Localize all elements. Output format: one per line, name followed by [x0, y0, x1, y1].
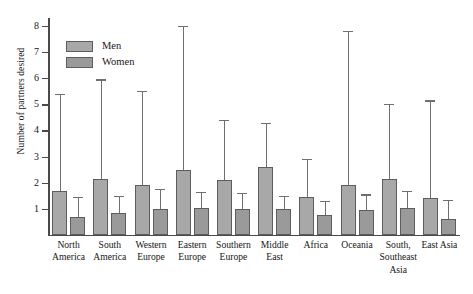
error-bar-women — [407, 191, 408, 208]
bar-women — [276, 209, 291, 235]
bar-women — [70, 217, 85, 235]
error-bar-cap-women — [320, 201, 330, 202]
y-axis-line — [48, 18, 50, 235]
y-tick-label: 5 — [34, 99, 39, 109]
error-bar-cap-women — [114, 196, 124, 197]
error-bar-men — [142, 91, 143, 185]
bar-group — [423, 18, 456, 235]
y-tick-label: 7 — [34, 47, 39, 57]
chart-container: Number of partners desired 12345678 Nort… — [0, 0, 473, 294]
bar-group — [176, 18, 209, 235]
error-bar-cap-men — [137, 91, 147, 92]
error-bar-men — [389, 104, 390, 179]
legend-item-men: Men — [66, 40, 134, 53]
bar-women — [317, 215, 332, 235]
bar-group — [299, 18, 332, 235]
error-bar-women — [78, 197, 79, 217]
error-bar-cap-men — [384, 104, 394, 105]
bar-men — [52, 191, 67, 235]
y-tick-label: 6 — [34, 73, 39, 83]
error-bar-women — [201, 192, 202, 208]
y-tick-label: 2 — [34, 178, 39, 188]
bar-men — [217, 180, 232, 235]
bar-men — [423, 198, 438, 235]
error-bar-women — [448, 200, 449, 220]
bar-group — [382, 18, 415, 235]
error-bar-cap-men — [425, 100, 435, 101]
bar-group — [135, 18, 168, 235]
bar-women — [194, 208, 209, 235]
y-tick-mark — [42, 209, 48, 210]
legend-label-women: Women — [102, 57, 134, 68]
bar-men — [93, 179, 108, 235]
x-axis-line — [48, 235, 460, 236]
error-bar-men — [101, 79, 102, 178]
y-tick-mark — [42, 78, 48, 79]
legend-item-women: Women — [66, 56, 134, 69]
error-bar-women — [119, 196, 120, 213]
bar-men — [299, 197, 314, 235]
y-tick-label: 1 — [34, 204, 39, 214]
bar-women — [400, 208, 415, 235]
error-bar-women — [366, 194, 367, 210]
error-bar-women — [284, 196, 285, 209]
y-tick-mark — [42, 104, 48, 105]
y-tick-label: 3 — [34, 152, 39, 162]
bar-men — [135, 185, 150, 235]
bar-women — [111, 213, 126, 235]
bar-women — [235, 209, 250, 235]
bar-group — [258, 18, 291, 235]
bar-women — [441, 219, 456, 235]
bar-men — [258, 167, 273, 235]
error-bar-cap-women — [237, 193, 247, 194]
y-tick-mark — [42, 52, 48, 53]
error-bar-cap-women — [279, 196, 289, 197]
error-bar-cap-women — [196, 192, 206, 193]
bar-men — [176, 170, 191, 235]
y-tick-mark — [42, 157, 48, 158]
error-bar-cap-men — [178, 26, 188, 27]
error-bar-women — [160, 189, 161, 209]
error-bar-men — [348, 31, 349, 185]
y-tick-mark — [42, 26, 48, 27]
y-tick-label: 4 — [34, 125, 39, 135]
error-bar-men — [266, 123, 267, 167]
bar-men — [382, 179, 397, 235]
legend-label-men: Men — [102, 41, 121, 52]
y-tick-mark — [42, 130, 48, 131]
y-tick-label: 8 — [34, 21, 39, 31]
error-bar-men — [60, 94, 61, 191]
error-bar-cap-women — [155, 189, 165, 190]
error-bar-cap-men — [55, 94, 65, 95]
error-bar-men — [224, 120, 225, 180]
legend: Men Women — [66, 40, 134, 72]
error-bar-cap-men — [261, 123, 271, 124]
error-bar-men — [307, 159, 308, 197]
bar-women — [153, 209, 168, 235]
x-axis-label: East Asia — [413, 239, 466, 251]
error-bar-women — [242, 193, 243, 209]
error-bar-men — [430, 100, 431, 198]
legend-swatch-women-icon — [66, 57, 93, 68]
error-bar-cap-women — [73, 197, 83, 198]
bar-women — [359, 210, 374, 235]
bar-men — [341, 185, 356, 235]
error-bar-men — [183, 26, 184, 170]
error-bar-cap-men — [96, 79, 106, 80]
bar-group — [341, 18, 374, 235]
error-bar-cap-women — [402, 191, 412, 192]
error-bar-cap-men — [343, 31, 353, 32]
error-bar-women — [325, 201, 326, 215]
error-bar-cap-men — [302, 159, 312, 160]
error-bar-cap-men — [219, 120, 229, 121]
y-axis-title: Number of partners desired — [16, 26, 26, 176]
error-bar-cap-women — [443, 200, 453, 201]
error-bar-cap-women — [361, 194, 371, 195]
bar-group — [217, 18, 250, 235]
legend-swatch-men-icon — [66, 41, 93, 52]
y-tick-mark — [42, 183, 48, 184]
